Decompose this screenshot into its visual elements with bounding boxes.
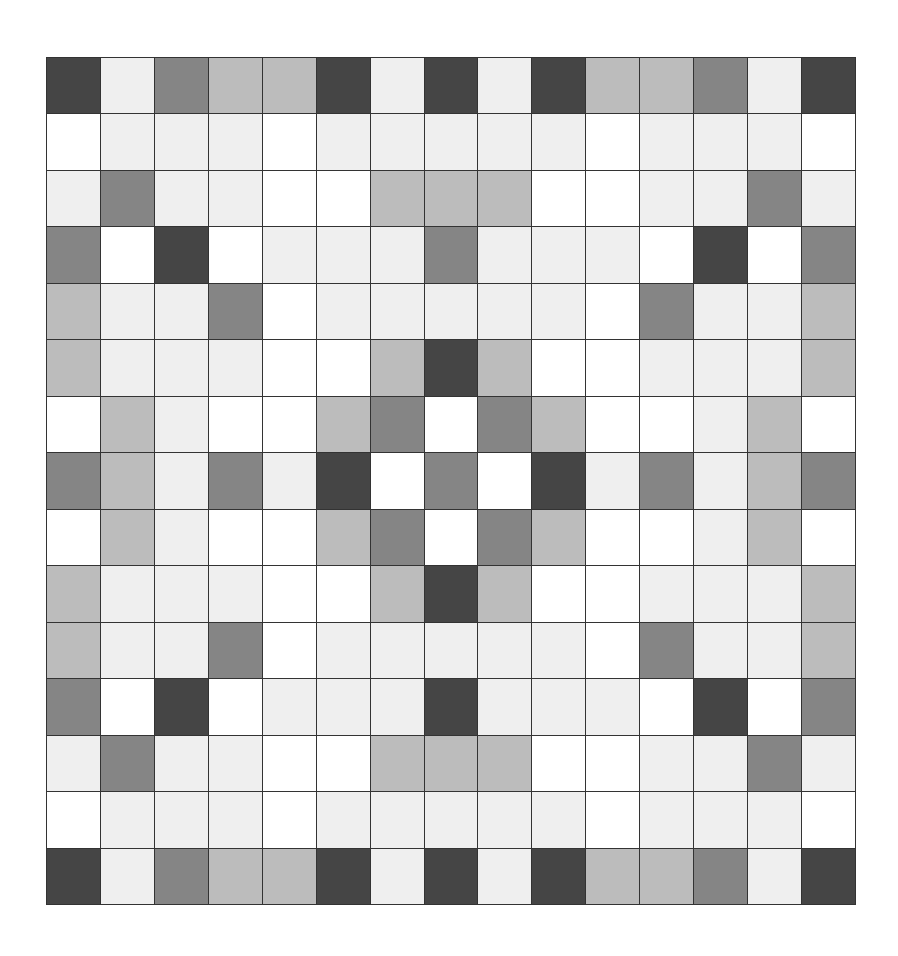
board-cell-very-light[interactable] [101,284,154,339]
board-cell-light-gray[interactable] [478,566,531,621]
board-cell-light-gray[interactable] [748,453,801,508]
board-cell-very-light[interactable] [478,284,531,339]
board-cell-white[interactable] [586,340,639,395]
board-cell-white[interactable] [317,340,370,395]
board-cell-white[interactable] [263,340,316,395]
board-cell-mid[interactable] [640,453,693,508]
board-cell-light-gray[interactable] [586,849,639,904]
board-cell-very-light[interactable] [748,849,801,904]
board-cell-mid[interactable] [155,58,208,113]
board-cell-white[interactable] [532,566,585,621]
board-cell-very-light[interactable] [425,623,478,678]
board-cell-very-light[interactable] [640,340,693,395]
board-cell-white[interactable] [47,792,100,847]
board-cell-very-light[interactable] [317,227,370,282]
board-cell-white[interactable] [586,510,639,565]
board-cell-light-gray[interactable] [101,397,154,452]
board-cell-very-light[interactable] [802,171,855,226]
board-cell-very-light[interactable] [371,58,424,113]
board-cell-mid[interactable] [802,679,855,734]
board-cell-mid[interactable] [425,227,478,282]
board-cell-very-light[interactable] [478,623,531,678]
board-cell-very-light[interactable] [748,623,801,678]
board-cell-very-light[interactable] [532,227,585,282]
board-cell-white[interactable] [748,227,801,282]
board-cell-very-light[interactable] [425,792,478,847]
board-cell-very-light[interactable] [802,736,855,791]
board-cell-white[interactable] [425,397,478,452]
board-cell-very-light[interactable] [586,679,639,734]
board-cell-very-light[interactable] [155,340,208,395]
board-cell-very-light[interactable] [155,566,208,621]
board-cell-very-light[interactable] [640,792,693,847]
board-cell-very-light[interactable] [317,284,370,339]
board-cell-light-gray[interactable] [532,510,585,565]
board-cell-white[interactable] [586,397,639,452]
board-cell-light-gray[interactable] [101,510,154,565]
board-cell-very-light[interactable] [748,58,801,113]
board-cell-light-gray[interactable] [748,510,801,565]
board-cell-dark[interactable] [532,849,585,904]
board-cell-white[interactable] [209,397,262,452]
board-cell-mid[interactable] [47,453,100,508]
board-cell-very-light[interactable] [155,114,208,169]
board-cell-white[interactable] [263,284,316,339]
board-cell-very-light[interactable] [101,623,154,678]
board-cell-white[interactable] [101,227,154,282]
board-cell-dark[interactable] [425,849,478,904]
board-cell-very-light[interactable] [155,510,208,565]
board-cell-very-light[interactable] [209,736,262,791]
board-cell-very-light[interactable] [155,623,208,678]
board-cell-very-light[interactable] [640,736,693,791]
board-cell-light-gray[interactable] [425,736,478,791]
board-cell-white[interactable] [640,510,693,565]
board-cell-light-gray[interactable] [317,510,370,565]
board-cell-very-light[interactable] [101,114,154,169]
board-cell-white[interactable] [802,397,855,452]
board-cell-white[interactable] [586,566,639,621]
board-cell-very-light[interactable] [101,566,154,621]
board-cell-very-light[interactable] [101,792,154,847]
board-cell-dark[interactable] [47,849,100,904]
board-cell-white[interactable] [532,171,585,226]
board-cell-mid[interactable] [371,397,424,452]
board-cell-very-light[interactable] [586,453,639,508]
board-cell-white[interactable] [640,227,693,282]
board-cell-light-gray[interactable] [802,284,855,339]
board-cell-white[interactable] [263,623,316,678]
board-cell-light-gray[interactable] [748,397,801,452]
board-cell-very-light[interactable] [47,736,100,791]
board-cell-white[interactable] [317,566,370,621]
board-cell-mid[interactable] [748,171,801,226]
board-cell-white[interactable] [586,623,639,678]
board-cell-light-gray[interactable] [263,58,316,113]
board-cell-very-light[interactable] [640,171,693,226]
board-cell-white[interactable] [47,510,100,565]
board-cell-very-light[interactable] [101,58,154,113]
board-cell-very-light[interactable] [748,566,801,621]
board-cell-dark[interactable] [694,227,747,282]
board-cell-light-gray[interactable] [47,566,100,621]
board-cell-very-light[interactable] [478,849,531,904]
board-cell-light-gray[interactable] [47,284,100,339]
board-cell-very-light[interactable] [101,340,154,395]
board-cell-white[interactable] [371,453,424,508]
board-cell-mid[interactable] [47,679,100,734]
board-cell-dark[interactable] [802,58,855,113]
board-cell-white[interactable] [802,792,855,847]
board-cell-light-gray[interactable] [47,623,100,678]
board-cell-light-gray[interactable] [371,340,424,395]
board-cell-very-light[interactable] [532,792,585,847]
board-cell-dark[interactable] [317,58,370,113]
board-cell-very-light[interactable] [694,453,747,508]
board-cell-very-light[interactable] [371,623,424,678]
board-cell-white[interactable] [263,114,316,169]
board-cell-very-light[interactable] [694,284,747,339]
board-cell-light-gray[interactable] [640,849,693,904]
board-cell-white[interactable] [586,114,639,169]
board-cell-very-light[interactable] [748,340,801,395]
board-cell-very-light[interactable] [694,623,747,678]
board-cell-very-light[interactable] [209,792,262,847]
board-cell-very-light[interactable] [155,171,208,226]
board-cell-mid[interactable] [209,623,262,678]
